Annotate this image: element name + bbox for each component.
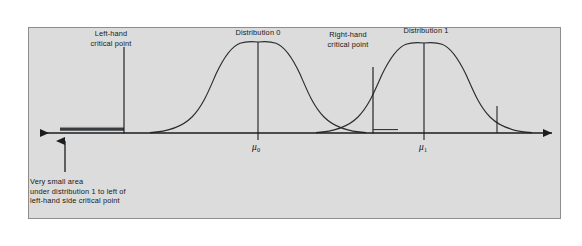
caption-very-small-area: Very small area under distribution 1 to … xyxy=(30,177,220,206)
label-distribution-0: Distribution 0 xyxy=(206,28,310,38)
figure-root: Left-hand critical point Distribution 0 … xyxy=(0,0,582,246)
caption-line-3: left-hand side critical point xyxy=(30,196,220,206)
caption-line-2: under distribution 1 to left of xyxy=(30,187,220,197)
label-left-hand-critical-point-line1: Left-hand xyxy=(68,29,154,39)
label-distribution-1: Distribution 1 xyxy=(376,26,476,36)
label-left-hand-critical-point-line2: critical point xyxy=(68,39,154,49)
label-right-hand-critical-point-line2: critical point xyxy=(306,40,390,50)
axis-label-mu-1-subscript: 1 xyxy=(424,146,427,153)
axis-label-mu-1: μ1 xyxy=(419,142,427,152)
axis-label-mu-0-subscript: 0 xyxy=(257,146,260,153)
caption-line-1: Very small area xyxy=(30,177,220,187)
axis-label-mu-0: μ0 xyxy=(252,142,260,152)
label-left-hand-critical-point: Left-hand critical point xyxy=(68,29,154,48)
